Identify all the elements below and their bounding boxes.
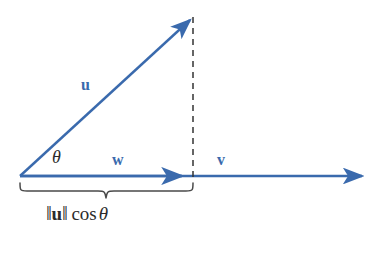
angle-theta-label: θ: [52, 148, 61, 166]
vector-projection-diagram: θ u w v ‖u‖cosθ: [0, 0, 379, 255]
vector-u-label: u: [81, 77, 90, 93]
vector-u-arrow: [20, 20, 190, 176]
vector-w-label: w: [112, 152, 124, 168]
vector-v-label: v: [217, 152, 225, 168]
norm-bar-right: ‖: [62, 201, 67, 225]
projection-length-brace: [20, 183, 193, 198]
formula-vector-u: u: [51, 203, 62, 224]
projection-length-formula: ‖u‖cosθ: [46, 203, 108, 224]
formula-theta-symbol: θ: [99, 203, 108, 224]
cosine-operator: cos: [71, 203, 96, 224]
